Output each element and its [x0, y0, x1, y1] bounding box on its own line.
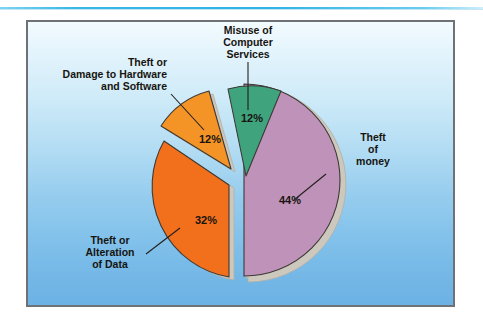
pie-chart-frame: 44% 32% 12% 12% Misuse of Computer Servi… — [26, 20, 455, 307]
label-hardware-damage: Theft or Damage to Hardware and Software — [63, 56, 168, 92]
label-theft-of-money-line1: Theft — [360, 131, 386, 143]
label-hardware-damage-line1: Theft or — [128, 56, 167, 68]
pct-label-hardware-damage: 12% — [199, 133, 221, 145]
label-misuse-services: Misuse of Computer Services — [223, 24, 273, 60]
pct-label-misuse-services: 12% — [241, 112, 263, 124]
pie-chart: 44% 32% 12% 12% Misuse of Computer Servi… — [28, 22, 455, 307]
label-theft-alteration-data: Theft or Alteration of Data — [85, 234, 134, 270]
top-divider-rule-soft — [0, 9, 483, 10]
label-misuse-services-line1: Misuse of — [224, 24, 273, 36]
label-theft-alteration-data-line2: Alteration — [85, 246, 134, 258]
label-misuse-services-line3: Services — [226, 48, 269, 60]
label-hardware-damage-line2: Damage to Hardware — [63, 68, 168, 80]
label-theft-of-money-line3: money — [356, 155, 390, 167]
label-hardware-damage-line3: and Software — [101, 80, 167, 92]
label-theft-of-money: Theft of money — [356, 131, 390, 167]
label-theft-alteration-data-line1: Theft or — [90, 234, 129, 246]
label-theft-alteration-data-line3: of Data — [92, 258, 128, 270]
label-theft-of-money-line2: of — [368, 143, 378, 155]
pct-label-theft-of-money: 44% — [279, 194, 301, 206]
label-misuse-services-line2: Computer — [223, 36, 273, 48]
pct-label-theft-alteration-data: 32% — [195, 214, 217, 226]
chart-page: 44% 32% 12% 12% Misuse of Computer Servi… — [0, 0, 483, 328]
